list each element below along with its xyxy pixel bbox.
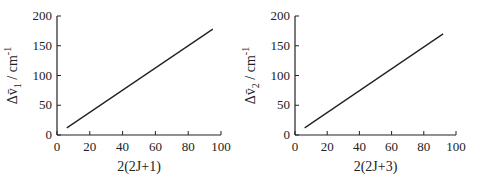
y-tick-label: 0 xyxy=(46,127,53,142)
y-tick-label: 50 xyxy=(277,97,290,112)
x-axis-label: 2(2J+1) xyxy=(117,159,161,175)
y-tick-label: 100 xyxy=(33,68,53,83)
x-tick-label: 60 xyxy=(385,139,398,154)
x-tick-label: 20 xyxy=(321,139,334,154)
x-tick-label: 20 xyxy=(83,139,96,154)
x-tick-label: 100 xyxy=(446,139,466,154)
y-tick-label: 50 xyxy=(39,97,52,112)
x-tick-label: 60 xyxy=(149,139,162,154)
x-tick-label: 100 xyxy=(211,139,231,154)
x-tick-label: 40 xyxy=(353,139,366,154)
charts-canvas: 0501001502000204060801002(2J+1)Δv̄1 / cm… xyxy=(0,0,485,180)
x-axis-label: 2(2J+3) xyxy=(354,159,398,175)
y-tick-label: 100 xyxy=(271,68,291,83)
y-tick-label: 200 xyxy=(33,8,53,23)
right-chart: 0501001502000204060801002(2J+3)Δv̄2 / cm… xyxy=(240,8,466,175)
left-chart: 0501001502000204060801002(2J+1)Δv̄1 / cm… xyxy=(2,8,231,175)
y-axis-label: Δv̄2 / cm-1 xyxy=(240,47,261,104)
x-tick-label: 0 xyxy=(54,139,61,154)
x-tick-label: 80 xyxy=(417,139,430,154)
y-tick-label: 200 xyxy=(271,8,291,23)
y-tick-label: 0 xyxy=(284,127,291,142)
x-tick-label: 80 xyxy=(182,139,195,154)
data-line xyxy=(305,34,443,128)
y-tick-label: 150 xyxy=(33,38,53,53)
data-line xyxy=(67,29,213,128)
x-tick-label: 0 xyxy=(292,139,299,154)
y-axis-label: Δv̄1 / cm-1 xyxy=(2,47,23,104)
x-tick-label: 40 xyxy=(116,139,129,154)
y-tick-label: 150 xyxy=(271,38,291,53)
